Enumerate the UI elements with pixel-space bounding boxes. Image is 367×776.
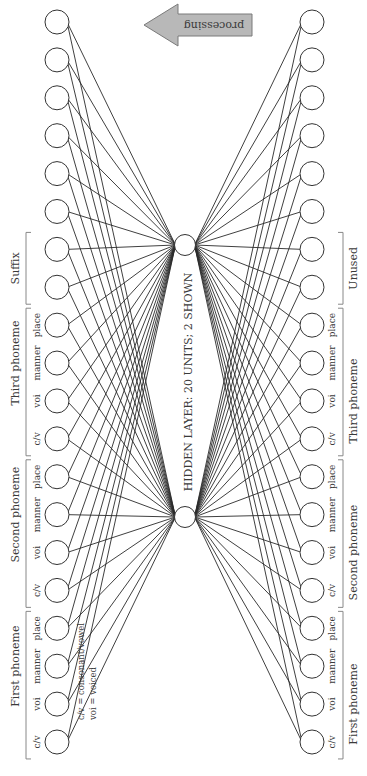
- hidden-output-connection: [195, 98, 303, 245]
- hidden-output-connection: [195, 517, 303, 628]
- input-unit: [45, 275, 69, 299]
- unit-label: voi: [32, 394, 42, 409]
- output-unit: [300, 578, 324, 602]
- output-unit: [300, 503, 324, 527]
- hidden-output-connection: [195, 245, 303, 553]
- hidden-output-connection: [195, 245, 303, 628]
- hidden-layer-label: HIDDEN LAYER: 20 UNITS; 2 SHOWN: [182, 272, 195, 491]
- input-hidden-connection: [67, 22, 176, 245]
- unit-label: c/v: [32, 583, 42, 597]
- output-unit: [300, 351, 324, 375]
- legend-line-voi: voi = voiced: [88, 666, 98, 721]
- output-unit: [300, 162, 324, 186]
- input-unit: [45, 86, 69, 110]
- input-unit: [45, 199, 69, 223]
- input-hidden-connection: [67, 98, 176, 245]
- input-unit: [45, 10, 69, 34]
- output-unit: [300, 616, 324, 640]
- input-unit: [45, 351, 69, 375]
- input-hidden-connection: [67, 245, 176, 249]
- input-unit: [45, 162, 69, 186]
- group-label: First phoneme: [9, 626, 22, 707]
- group-label: Third phoneme: [347, 358, 360, 443]
- input-hidden-connection: [67, 245, 176, 287]
- unit-label: place: [327, 465, 337, 489]
- hidden-output-connection: [195, 325, 303, 517]
- output-unit: [300, 10, 324, 34]
- output-unit: [300, 313, 324, 337]
- input-unit: [45, 503, 69, 527]
- output-unit: [300, 427, 324, 451]
- input-unit: [45, 578, 69, 602]
- output-unit: [300, 692, 324, 716]
- unit-label: c/v: [327, 583, 337, 597]
- input-unit: [45, 313, 69, 337]
- group-label: First phoneme: [347, 663, 360, 744]
- unit-label: manner: [32, 345, 42, 381]
- output-unit: [300, 275, 324, 299]
- input-unit: [45, 541, 69, 565]
- unit-label: c/v: [32, 431, 42, 445]
- group-bracket: [338, 232, 343, 304]
- input-hidden-connection: [67, 136, 176, 517]
- input-unit: [45, 48, 69, 72]
- arrow-label: processing: [184, 19, 245, 32]
- output-unit: [300, 389, 324, 413]
- unit-label: place: [327, 313, 337, 337]
- hidden-output-connection: [195, 517, 303, 590]
- input-hidden-connection: [67, 517, 176, 590]
- input-hidden-connection: [67, 517, 176, 553]
- unit-label: voi: [32, 697, 42, 712]
- hidden-output-connection: [195, 517, 303, 742]
- output-unit: [300, 730, 324, 754]
- group-label: Unused: [347, 247, 360, 290]
- group-label: Second phoneme: [9, 467, 22, 563]
- input-unit: [45, 389, 69, 413]
- unit-label: voi: [327, 546, 337, 561]
- hidden-output-connection: [195, 245, 303, 287]
- unit-label: manner: [327, 496, 337, 532]
- hidden-output-connection: [195, 517, 303, 704]
- hidden-output-connection: [195, 245, 303, 249]
- unit-label: c/v: [32, 735, 42, 749]
- processing-arrow: processing: [144, 4, 252, 46]
- hidden-output-connection: [195, 174, 303, 245]
- unit-label: manner: [327, 345, 337, 381]
- output-unit: [300, 86, 324, 110]
- group-bracket: [26, 611, 31, 759]
- hidden-output-connection: [195, 22, 303, 245]
- group-label: Third phoneme: [9, 321, 22, 406]
- output-unit: [300, 237, 324, 261]
- input-unit: [45, 654, 69, 678]
- output-unit: [300, 541, 324, 565]
- group-bracket: [26, 460, 31, 608]
- output-unit: [300, 124, 324, 148]
- input-hidden-connection: [67, 325, 176, 517]
- input-unit: [45, 427, 69, 451]
- unit-label: voi: [32, 546, 42, 561]
- output-unit: [300, 654, 324, 678]
- unit-label: manner: [32, 496, 42, 532]
- network-diagram: processing First phonemec/vvoimannerplac…: [0, 0, 367, 776]
- group-label: Suffix: [9, 251, 22, 284]
- hidden-unit: [175, 507, 196, 528]
- group-bracket: [338, 460, 343, 608]
- input-unit: [45, 616, 69, 640]
- input-hidden-connection: [67, 517, 176, 628]
- hidden-output-connection: [195, 136, 303, 517]
- input-unit: [45, 692, 69, 716]
- output-unit: [300, 48, 324, 72]
- group-label: Second phoneme: [347, 505, 360, 601]
- group-bracket: [26, 308, 31, 456]
- output-unit: [300, 465, 324, 489]
- unit-label: place: [32, 616, 42, 640]
- input-unit: [45, 730, 69, 754]
- legend: c/v = consonant/vowel voi = voiced: [76, 623, 98, 721]
- group-bracket: [338, 308, 343, 456]
- unit-label: place: [32, 465, 42, 489]
- legend-line-cv: c/v = consonant/vowel: [76, 623, 86, 720]
- unit-label: voi: [327, 697, 337, 712]
- unit-label: manner: [32, 648, 42, 684]
- input-hidden-connection: [67, 245, 176, 439]
- unit-label: place: [32, 313, 42, 337]
